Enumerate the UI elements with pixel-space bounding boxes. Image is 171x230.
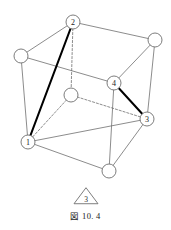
edge-2-topright bbox=[79, 23, 148, 38]
edge-1-2-bold bbox=[30, 28, 70, 136]
node-1[interactable]: 1 bbox=[21, 135, 35, 149]
node-2-label: 2 bbox=[71, 18, 75, 27]
figure-caption: 図 10. 4 bbox=[0, 209, 171, 221]
node-top-left-unlabeled-circle bbox=[14, 49, 28, 63]
node-top-left-unlabeled[interactable] bbox=[14, 49, 28, 63]
node-bottom-unlabeled[interactable] bbox=[102, 164, 116, 178]
edge-topleft-2 bbox=[26, 26, 67, 53]
triangle-marker-label: 3 bbox=[84, 195, 88, 204]
cube-graph-diagram: 2431 3 bbox=[0, 0, 171, 230]
node-top-right-unlabeled-circle bbox=[148, 33, 162, 47]
edge-2-interior bbox=[71, 28, 73, 88]
node-3[interactable]: 3 bbox=[140, 112, 154, 126]
edge-bottom-3 bbox=[113, 124, 143, 166]
edge-topleft-1 bbox=[22, 62, 28, 135]
nodes-layer: 2431 bbox=[14, 15, 162, 178]
edge-topleft-4 bbox=[27, 58, 108, 81]
node-2[interactable]: 2 bbox=[66, 15, 80, 29]
node-1-label: 1 bbox=[26, 138, 30, 147]
node-4[interactable]: 4 bbox=[107, 76, 121, 90]
edge-1-3 bbox=[34, 120, 140, 141]
figure-container: 2431 3 図 10. 4 bbox=[0, 0, 171, 230]
node-top-right-unlabeled[interactable] bbox=[148, 33, 162, 47]
node-3-label: 3 bbox=[145, 115, 149, 124]
node-interior-unlabeled[interactable] bbox=[64, 88, 78, 102]
edge-4-bottom bbox=[109, 89, 113, 164]
node-4-label: 4 bbox=[112, 79, 116, 88]
edge-4-3-bold bbox=[118, 88, 142, 114]
edge-1-bottom bbox=[34, 144, 103, 169]
node-interior-unlabeled-circle bbox=[64, 88, 78, 102]
edge-interior-3 bbox=[77, 97, 141, 117]
edge-4-topright bbox=[118, 45, 150, 79]
edge-topright-3 bbox=[148, 46, 155, 112]
triangle-marker-layer: 3 bbox=[74, 188, 98, 204]
edges-layer bbox=[22, 23, 155, 168]
node-bottom-unlabeled-circle bbox=[102, 164, 116, 178]
